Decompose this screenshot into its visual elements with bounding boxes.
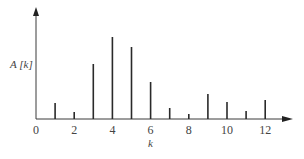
x-tick-labels: 024681012 [33,123,271,137]
stems-group [55,37,265,119]
x-tick-label: 10 [221,123,233,137]
x-axis-arrow-icon [282,116,293,122]
x-tick-label: 0 [33,123,39,137]
stem-plot: 024681012 A [k] k [0,0,304,159]
y-axis-label: A [k] [9,58,33,70]
x-tick-label: 6 [148,123,154,137]
x-tick-label: 2 [71,123,77,137]
y-axis-arrow-icon [33,7,39,16]
x-axis-label: k [148,137,154,149]
x-tick-label: 4 [109,123,115,137]
x-tick-label: 8 [186,123,192,137]
x-tick-label: 12 [259,123,271,137]
